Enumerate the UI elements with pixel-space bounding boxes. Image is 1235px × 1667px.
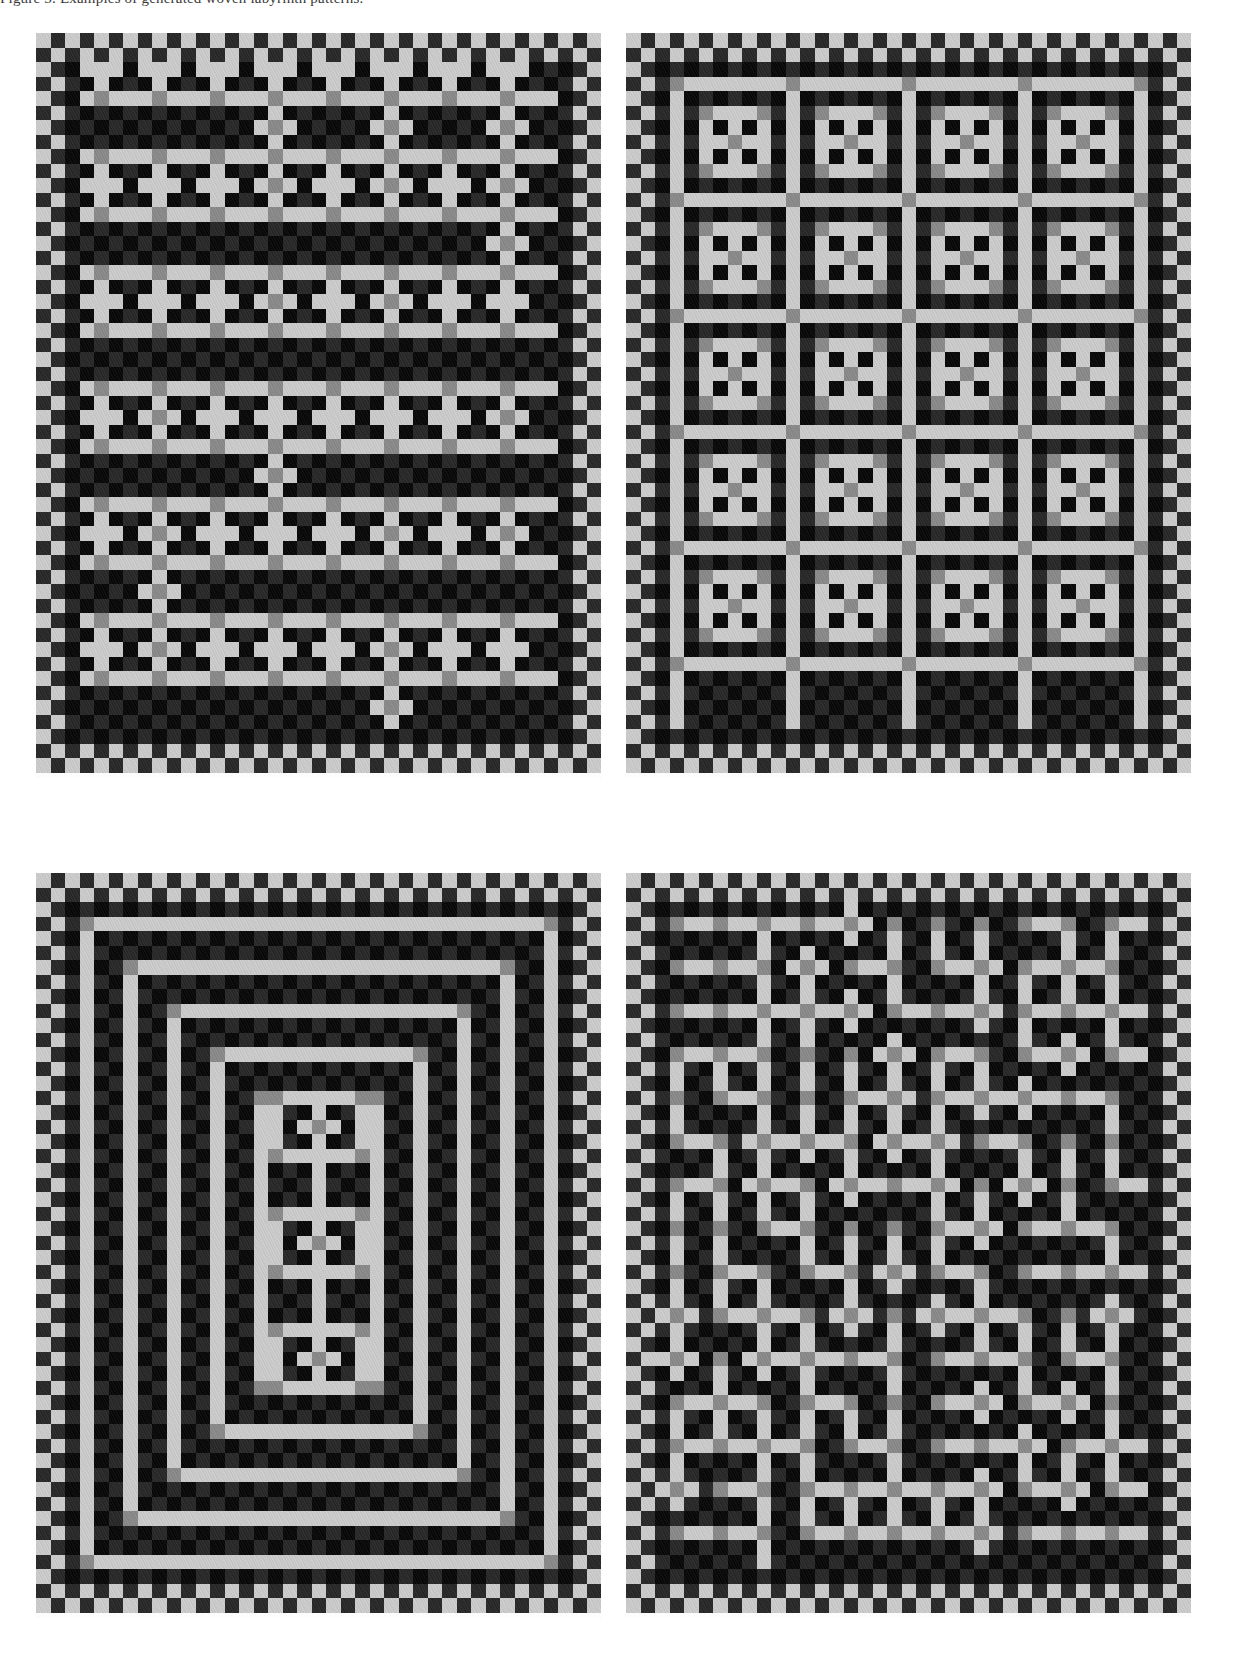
figure-root: Figure 5. Examples of generated woven la… xyxy=(0,0,1235,1667)
pattern-panel-3 xyxy=(36,873,601,1618)
pattern-canvas-3 xyxy=(36,873,601,1618)
pattern-canvas-4 xyxy=(626,873,1191,1618)
figure-caption: Figure 5. Examples of generated woven la… xyxy=(0,0,1235,9)
pattern-panel-1 xyxy=(36,33,601,778)
pattern-canvas-2 xyxy=(626,33,1191,778)
pattern-panel-2 xyxy=(626,33,1191,778)
figure-caption-text: Figure 5. Examples of generated woven la… xyxy=(0,0,363,4)
pattern-panel-4 xyxy=(626,873,1191,1618)
pattern-canvas-1 xyxy=(36,33,601,778)
